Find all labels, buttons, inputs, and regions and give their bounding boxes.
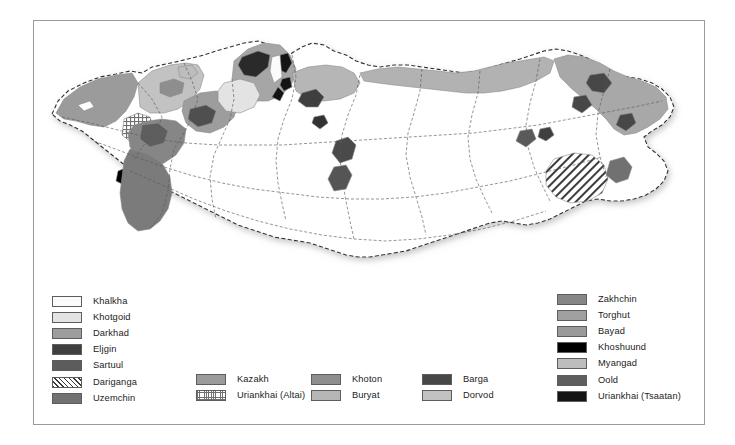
legend-swatch-dariganga: [52, 377, 82, 388]
legend-label-myangad: Myangad: [598, 358, 637, 369]
legend-item-dariganga[interactable]: Dariganga: [52, 374, 137, 390]
legend-label-dariganga: Dariganga: [93, 377, 137, 388]
legend-swatch-zakhchin: [557, 294, 587, 305]
legend-column-right: Zakhchin Torghut Bayad Khoshuund Myangad…: [557, 291, 681, 404]
legend-item-uzemchin[interactable]: Uzemchin: [52, 390, 137, 406]
legend-swatch-uzemchin: [52, 393, 82, 404]
legend-item-oold[interactable]: Oold: [557, 372, 681, 388]
legend-swatch-torghut: [557, 310, 587, 321]
map-canvas[interactable]: [34, 21, 704, 281]
legend-column-left: Khalkha Khotgoid Darkhad Eljgin Sartuul …: [52, 293, 137, 406]
legend-label-buryat: Buryat: [352, 390, 380, 401]
legend-swatch-barga: [422, 374, 452, 385]
legend-swatch-buryat: [311, 390, 341, 401]
legend-label-eljgin: Eljgin: [93, 344, 116, 355]
legend-swatch-khoton: [311, 374, 341, 385]
legend-label-uzemchin: Uzemchin: [93, 393, 135, 404]
legend-swatch-kazakh: [196, 374, 226, 385]
legend-item-khoton[interactable]: Khoton: [311, 371, 382, 387]
legend-swatch-khalkha: [52, 296, 82, 307]
legend-label-kazakh: Kazakh: [237, 374, 269, 385]
legend-item-khalkha[interactable]: Khalkha: [52, 293, 137, 309]
legend-label-barga: Barga: [463, 374, 488, 385]
legend-swatch-bayad: [557, 326, 587, 337]
legend-label-dorvod: Dorvod: [463, 390, 494, 401]
legend-item-kazakh[interactable]: Kazakh: [196, 371, 305, 387]
legend-swatch-eljgin: [52, 344, 82, 355]
legend-label-sartuul: Sartuul: [93, 360, 123, 371]
legend-swatch-khoshuund: [557, 342, 587, 353]
legend-item-zakhchin[interactable]: Zakhchin: [557, 291, 681, 307]
legend-label-darkhad: Darkhad: [93, 328, 129, 339]
legend-item-khotgoid[interactable]: Khotgoid: [52, 309, 137, 325]
legend-swatch-oold: [557, 375, 587, 386]
legend-label-khotgoid: Khotgoid: [93, 312, 131, 323]
legend-label-bayad: Bayad: [598, 326, 625, 337]
legend-swatch-myangad: [557, 358, 587, 369]
legend-item-myangad[interactable]: Myangad: [557, 356, 681, 372]
legend-label-khalkha: Khalkha: [93, 296, 127, 307]
legend-item-buryat[interactable]: Buryat: [311, 387, 382, 403]
legend-label-torghut: Torghut: [598, 310, 630, 321]
legend-label-uriankhai-altai: Uriankhai (Altai): [237, 390, 305, 401]
legend-label-zakhchin: Zakhchin: [598, 294, 637, 305]
legend-swatch-sartuul: [52, 360, 82, 371]
legend-label-khoton: Khoton: [352, 374, 382, 385]
legend-item-eljgin[interactable]: Eljgin: [52, 342, 137, 358]
legend-swatch-khotgoid: [52, 312, 82, 323]
legend-item-bayad[interactable]: Bayad: [557, 323, 681, 339]
legend-item-dorvod[interactable]: Dorvod: [422, 387, 494, 403]
legend-item-torghut[interactable]: Torghut: [557, 307, 681, 323]
legend-item-uriankhai-altai[interactable]: Uriankhai (Altai): [196, 387, 305, 403]
legend-column-mid2: Khoton Buryat: [311, 371, 382, 403]
legend-label-uriankhai-tsaatan: Uriankhai (Tsaatan): [598, 391, 681, 402]
legend-item-barga[interactable]: Barga: [422, 371, 494, 387]
legend-swatch-darkhad: [52, 328, 82, 339]
legend-item-khoshuund[interactable]: Khoshuund: [557, 340, 681, 356]
legend-label-oold: Oold: [598, 375, 618, 386]
figure-frame: Khalkha Khotgoid Darkhad Eljgin Sartuul …: [33, 20, 705, 425]
legend-label-khoshuund: Khoshuund: [598, 342, 646, 353]
legend-item-uriankhai-tsaatan[interactable]: Uriankhai (Tsaatan): [557, 388, 681, 404]
legend-item-darkhad[interactable]: Darkhad: [52, 325, 137, 341]
legend-column-mid1: Kazakh Uriankhai (Altai): [196, 371, 305, 403]
legend-item-sartuul[interactable]: Sartuul: [52, 358, 137, 374]
legend-swatch-uriankhai-tsaatan: [557, 391, 587, 402]
legend-swatch-uriankhai-altai: [196, 390, 226, 401]
legend-column-mid3: Barga Dorvod: [422, 371, 494, 403]
legend-swatch-dorvod: [422, 390, 452, 401]
